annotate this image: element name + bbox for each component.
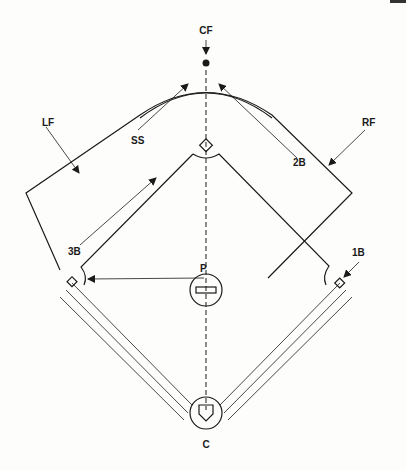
baseball-field-diagram: CF LF RF SS 2B 3B 1B P C (0, 0, 406, 470)
first-base-arrow (344, 262, 359, 277)
third-base-label: 3B (68, 246, 81, 257)
second-base-arrow (219, 84, 297, 158)
ss-arrow (138, 84, 188, 130)
page-number-fragment (390, 0, 406, 3)
third-base-icon (67, 277, 77, 287)
cf-label: CF (199, 25, 212, 36)
rf-label: RF (362, 117, 375, 128)
third-base-arrow (80, 178, 156, 245)
rf-arrow (329, 130, 365, 165)
right-foul-lines (220, 283, 352, 420)
lf-label: LF (42, 117, 54, 128)
left-foul-lines (60, 283, 192, 420)
catcher-label: C (202, 439, 209, 450)
cf-position-dot (203, 60, 210, 67)
pitcher-label: P (200, 263, 207, 274)
second-base-label: 2B (293, 157, 306, 168)
ss-label: SS (131, 135, 145, 146)
pitcher-arrow (88, 278, 204, 279)
lf-arrow (46, 127, 79, 173)
first-base-label: 1B (352, 247, 365, 258)
